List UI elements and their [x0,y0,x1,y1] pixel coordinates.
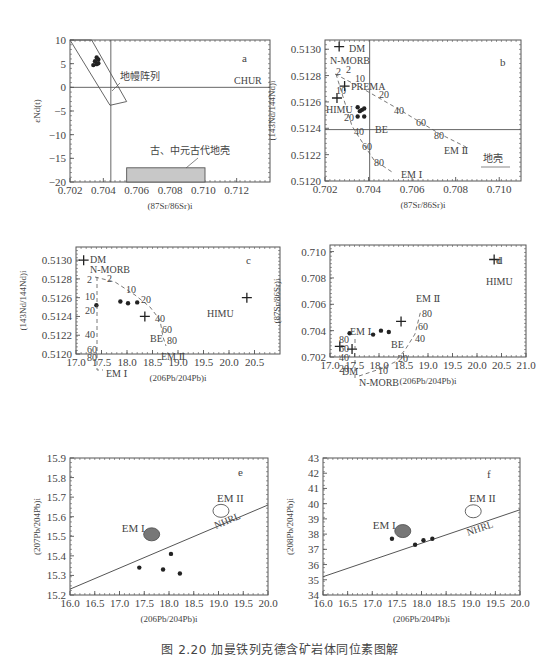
panel-f: 16.016.517.017.518.018.519.019.520.04342… [285,452,530,624]
end-member-label: EM I [122,522,145,534]
y-tick-label: 15.6 [47,511,67,523]
x-tick-label: 17.0 [363,597,383,609]
panel-e: 16.016.517.017.518.018.519.019.520.015.9… [32,452,278,624]
mixing-curve-label: DM [342,366,358,377]
nhrl-label: NHRL [465,518,494,537]
mixing-curve-label: 10 [126,284,136,295]
x-tick-label: 0.712 [224,184,249,196]
x-tick-label: 0.706 [400,183,425,195]
x-tick-label: 17.5 [135,597,155,609]
x-tick-label: 20.5 [245,356,265,368]
x-tick-label: 0.710 [191,184,216,196]
y-tick-label: 39 [308,513,320,525]
mixing-curve-label: d [496,255,501,266]
end-member-field [465,505,481,518]
mixing-curve-label: 2 [87,274,92,285]
mixing-curve-label: 20 [398,353,408,364]
y-tick-label: 15.3 [47,569,67,581]
sample-point [387,330,391,334]
y-tick-label: 15.2 [47,589,66,601]
y-tick-label: 0.704 [301,325,326,337]
panel-d: 17.017.518.018.519.019.520.020.521.00.71… [272,245,536,388]
y-tick-label: 5 [61,58,67,70]
mixing-curve-label: 2 [346,64,351,75]
sample-point [355,114,359,118]
x-tick-label: 18.0 [159,597,179,609]
x-tick-label: 17.0 [110,597,130,609]
mixing-curve-label: 60 [362,141,372,152]
mixing-curve-label: HIMU [486,276,513,287]
y-tick-label: 15.7 [47,491,67,503]
end-member-cross [334,42,344,52]
y-tick-label: 0.5120 [291,175,322,187]
y-axis-label: (87Sr/86Sr)i [272,278,282,323]
y-tick-label: 0.706 [301,298,326,310]
x-tick-label: 0.704 [91,184,116,196]
panel-letter: b [500,56,506,68]
chur-label: CHUR [234,75,262,86]
x-tick-label: 16.5 [85,597,105,609]
mixing-curve-label: EM Ⅱ [416,293,441,304]
y-tick-label: 0.5128 [291,70,322,82]
mixing-curve-label: EM Ⅱ [161,351,186,362]
x-tick-label: 0.708 [158,184,183,196]
x-tick-label: 21.0 [516,359,536,371]
y-tick-label: 0.5130 [42,254,73,266]
x-axis-label: (87Sr/86Sr)i [401,200,446,210]
sample-point [169,552,173,556]
x-axis-label: (206Pb/204Pb)i [149,373,207,383]
end-member-field [395,525,411,538]
x-axis-label: (206Pb/204Pb)i [399,376,457,386]
y-tick-label: 37 [308,543,320,555]
mixing-curve-label: EM Ⅰ [350,326,372,337]
mixing-curve-label: BE [375,124,388,135]
x-tick-label: 20.0 [258,597,278,609]
mixing-curve-label: 10 [378,365,388,376]
mixing-curve-label: BE [391,339,404,350]
panel-letter: e [238,466,243,478]
mixing-curve-label: 40 [415,333,425,344]
end-member-cross [140,311,150,321]
x-tick-label: 18.5 [184,597,204,609]
mixing-curve-label: 10 [85,291,95,302]
sample-point [362,106,366,110]
x-tick-label: 18.5 [437,597,457,609]
plot-frame [70,40,270,182]
end-member-cross [242,293,252,303]
mixing-curve-label: 80 [167,335,177,346]
y-tick-label: 34 [308,589,320,601]
y-tick-label: 0.702 [301,351,326,363]
sample-point [118,299,122,303]
x-tick-label: 19.5 [234,597,254,609]
sample-point [413,543,417,547]
mixing-curve-label: 40 [354,126,364,137]
y-tick-label: −10 [49,129,67,141]
sample-point [358,109,362,113]
y-tick-label: 0.5126 [42,292,73,304]
y-tick-label: 15.4 [47,550,67,562]
x-tick-label: 16.5 [338,597,358,609]
mixing-curve-label: 40 [155,313,165,324]
sample-point [178,571,182,575]
mixing-curve-label: 80 [374,157,384,168]
x-tick-label: 0.706 [124,184,149,196]
x-tick-label: 18.0 [412,597,432,609]
x-axis-label: (206Pb/204Pb)i [393,614,451,624]
mixing-curve-label: EM Ⅰ [106,368,128,379]
panel-a: 0.7020.7040.7060.7080.7100.7121050−5−10−… [32,34,270,211]
y-axis-label: (143Nd/144Nd)i [267,80,277,140]
mixing-curve-label: 60 [418,321,428,332]
mixing-curve-label: N-MORB [359,377,399,388]
x-tick-label: 20.0 [510,597,530,609]
y-tick-label: 15.8 [47,472,67,484]
y-tick-label: 43 [308,452,320,464]
panel-c: 17.017.518.018.519.019.520.020.50.51300.… [18,247,280,383]
sample-point [379,328,383,332]
y-tick-label: −20 [49,176,67,188]
mixing-curve-label: 80 [87,352,97,363]
sample-point [421,538,425,542]
mixing-curve-label: EM Ⅰ [401,169,423,180]
x-tick-label: 0.708 [443,183,468,195]
y-tick-label: 42 [308,467,319,479]
plot-frame [70,458,268,595]
